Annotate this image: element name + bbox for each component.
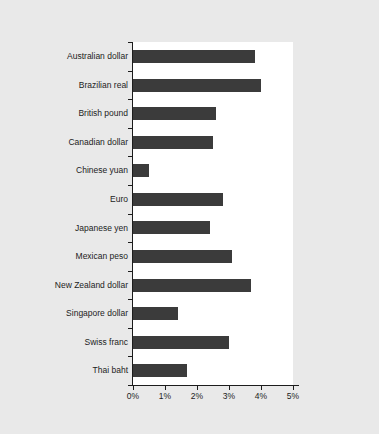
x-axis-tick-label: 4% <box>255 392 267 401</box>
bar-row <box>133 242 293 271</box>
category-label: Thai baht <box>93 366 128 375</box>
x-axis-line <box>132 385 299 386</box>
category-labels: Australian dollarBrazilian realBritish p… <box>0 42 128 385</box>
category-label-row: Brazilian real <box>0 71 128 100</box>
y-axis-tick <box>128 156 132 157</box>
bar <box>133 364 187 377</box>
bar-row <box>133 299 293 328</box>
bar-row <box>133 128 293 157</box>
category-label: Mexican peso <box>76 252 128 261</box>
category-label-row: Thai baht <box>0 356 128 385</box>
category-label-row: Singapore dollar <box>0 299 128 328</box>
bar-chart: Australian dollarBrazilian realBritish p… <box>0 0 379 434</box>
bar <box>133 107 216 120</box>
category-label: Euro <box>110 195 128 204</box>
bar <box>133 250 232 263</box>
category-label-row: Euro <box>0 185 128 214</box>
y-axis-tick <box>128 242 132 243</box>
bars-group <box>133 42 293 385</box>
category-label-row: New Zealand dollar <box>0 271 128 300</box>
x-axis-tick-label: 5% <box>287 392 299 401</box>
bar <box>133 279 251 292</box>
bar <box>133 336 229 349</box>
category-label: Brazilian real <box>79 81 128 90</box>
y-axis-tick <box>128 356 132 357</box>
category-label-row: Chinese yuan <box>0 156 128 185</box>
x-axis-tick <box>165 386 166 390</box>
x-axis-tick-label: 3% <box>223 392 235 401</box>
bar <box>133 79 261 92</box>
category-label-row: Swiss franc <box>0 328 128 357</box>
y-axis-tick <box>128 299 132 300</box>
bar-row <box>133 328 293 357</box>
x-axis-tick <box>293 386 294 390</box>
bar-row <box>133 42 293 71</box>
y-axis-tick <box>128 271 132 272</box>
category-label: Chinese yuan <box>76 166 128 175</box>
bar-row <box>133 356 293 385</box>
category-label: Australian dollar <box>67 52 128 61</box>
category-label: New Zealand dollar <box>55 281 128 290</box>
y-axis-tick <box>128 385 132 386</box>
category-label-row: Australian dollar <box>0 42 128 71</box>
x-axis-tick <box>261 386 262 390</box>
y-axis-tick <box>128 214 132 215</box>
bar-row <box>133 99 293 128</box>
bar-row <box>133 185 293 214</box>
bar-row <box>133 213 293 242</box>
x-axis-tick <box>197 386 198 390</box>
x-axis-tick-label: 0% <box>127 392 139 401</box>
x-axis-tick <box>133 386 134 390</box>
bar <box>133 164 149 177</box>
category-label: Swiss franc <box>85 338 128 347</box>
x-axis-tick-label: 1% <box>159 392 171 401</box>
y-axis-tick <box>128 42 132 43</box>
bar-row <box>133 271 293 300</box>
x-axis-tick <box>229 386 230 390</box>
bar <box>133 136 213 149</box>
bar <box>133 221 210 234</box>
category-label-row: Japanese yen <box>0 213 128 242</box>
bar-row <box>133 156 293 185</box>
category-label: Japanese yen <box>75 224 128 233</box>
y-axis-tick <box>128 99 132 100</box>
category-label-row: Mexican peso <box>0 242 128 271</box>
bar-row <box>133 71 293 100</box>
category-label: Canadian dollar <box>68 138 128 147</box>
category-label-row: British pound <box>0 99 128 128</box>
y-axis-tick <box>128 128 132 129</box>
category-label-row: Canadian dollar <box>0 128 128 157</box>
category-label: British pound <box>78 109 128 118</box>
y-axis-tick <box>128 71 132 72</box>
x-axis-tick-label: 2% <box>191 392 203 401</box>
y-axis-tick <box>128 185 132 186</box>
bar <box>133 50 255 63</box>
category-label: Singapore dollar <box>66 309 128 318</box>
y-axis-tick <box>128 328 132 329</box>
bar <box>133 307 178 320</box>
bar <box>133 193 223 206</box>
